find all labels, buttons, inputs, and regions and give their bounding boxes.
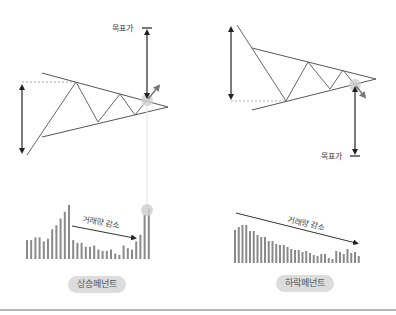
volume-bar bbox=[72, 240, 74, 259]
volume-bar bbox=[287, 247, 289, 263]
volume-bar bbox=[55, 225, 57, 259]
volume-bar bbox=[60, 219, 62, 260]
volume-bar bbox=[354, 252, 356, 263]
right-volume-label: 거래량 감소 bbox=[287, 214, 326, 232]
left-volume-bars bbox=[26, 205, 150, 259]
breakout-arrow-icon bbox=[148, 87, 158, 99]
target-label: 목표가 bbox=[112, 24, 134, 33]
left-volume-label: 거래량 감소 bbox=[82, 214, 121, 230]
volume-bar bbox=[275, 244, 277, 263]
left-volume-spike-highlight bbox=[141, 204, 153, 216]
volume-bar bbox=[332, 259, 334, 263]
volume-bar bbox=[26, 240, 28, 259]
volume-bar bbox=[106, 251, 108, 259]
volume-bar bbox=[68, 205, 70, 259]
volume-bar bbox=[89, 247, 91, 259]
volume-bar bbox=[127, 248, 129, 259]
volume-bar bbox=[51, 229, 53, 259]
volume-bar bbox=[358, 256, 360, 263]
volume-bar bbox=[30, 240, 32, 259]
volume-bar bbox=[144, 214, 146, 259]
volume-bar bbox=[253, 231, 255, 263]
volume-bar bbox=[347, 249, 349, 263]
ascending-pennant-label: 상승페넌트 bbox=[68, 276, 126, 293]
right-pennant: 목표가 bbox=[231, 25, 376, 161]
volume-bar bbox=[309, 253, 311, 263]
volume-bar bbox=[39, 237, 41, 259]
volume-bar bbox=[324, 254, 326, 263]
bottom-divider bbox=[0, 309, 396, 311]
volume-bar bbox=[97, 250, 99, 259]
pennant-pattern-diagram: 목표가 목표가 거래량 감소 거래량 감소 상승페넌트 하락페넌트 bbox=[0, 0, 396, 315]
volume-bar bbox=[242, 225, 244, 263]
volume-bar bbox=[34, 237, 36, 259]
volume-bar bbox=[47, 239, 49, 259]
price-zigzag bbox=[27, 82, 147, 155]
volume-bar bbox=[81, 243, 83, 259]
left-pennant: 목표가 bbox=[22, 24, 168, 212]
volume-bar bbox=[123, 246, 125, 260]
left-volume-decrease-arrow-icon bbox=[72, 226, 134, 238]
volume-bar bbox=[350, 253, 352, 263]
volume-bar bbox=[76, 243, 78, 259]
volume-bar bbox=[238, 227, 240, 263]
volume-bar bbox=[102, 251, 104, 259]
volume-bar bbox=[264, 237, 266, 263]
volume-bar bbox=[320, 254, 322, 263]
descending-pennant-label: 하락페넌트 bbox=[276, 275, 334, 292]
volume-bar bbox=[249, 231, 251, 263]
right-volume-bars bbox=[234, 225, 360, 263]
volume-bar bbox=[294, 250, 296, 263]
volume-bar bbox=[114, 254, 116, 259]
volume-bar bbox=[234, 230, 236, 263]
volume-bar bbox=[110, 250, 112, 259]
volume-bar bbox=[317, 256, 319, 263]
price-zigzag bbox=[237, 25, 355, 101]
upper-trendline bbox=[252, 48, 376, 79]
volume-bar bbox=[335, 251, 337, 263]
volume-bar bbox=[139, 235, 141, 259]
volume-bar bbox=[339, 252, 341, 263]
volume-bar bbox=[131, 250, 133, 259]
volume-bar bbox=[343, 254, 345, 263]
volume-bar bbox=[245, 225, 247, 263]
volume-bar bbox=[272, 241, 274, 263]
volume-bar bbox=[43, 241, 45, 259]
volume-bar bbox=[313, 255, 315, 263]
target-label: 목표가 bbox=[321, 152, 343, 161]
volume-bar bbox=[268, 241, 270, 263]
volume-bar bbox=[93, 246, 95, 260]
volume-bar bbox=[298, 250, 300, 263]
lower-trendline bbox=[42, 107, 168, 137]
volume-bar bbox=[85, 247, 87, 259]
volume-bar bbox=[135, 241, 137, 259]
volume-bar bbox=[302, 252, 304, 263]
volume-bar bbox=[257, 235, 259, 263]
volume-bar bbox=[118, 255, 120, 259]
volume-bar bbox=[260, 237, 262, 263]
volume-bar bbox=[290, 249, 292, 263]
volume-bar bbox=[283, 245, 285, 263]
volume-bar bbox=[64, 212, 66, 259]
volume-bar bbox=[328, 258, 330, 263]
volume-bar bbox=[305, 251, 307, 263]
volume-bar bbox=[279, 245, 281, 263]
